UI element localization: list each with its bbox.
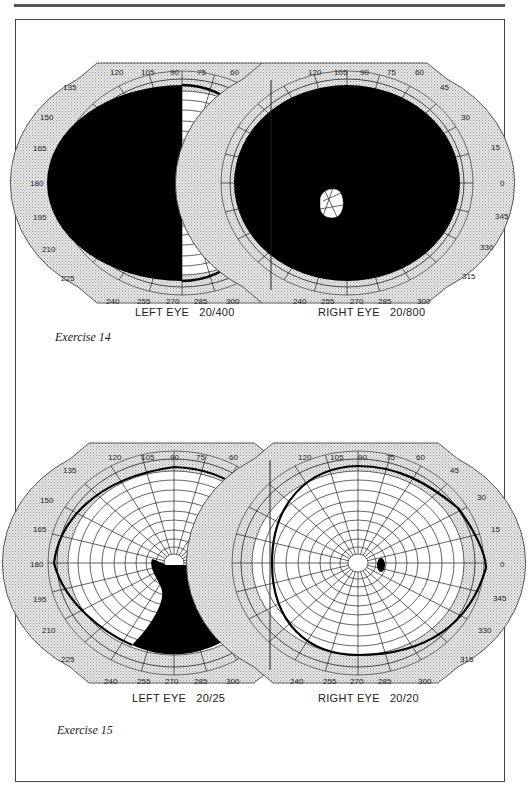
svg-text:30: 30 [477,493,486,502]
ex14-left-eye-label: LEFT EYE 20/400 [135,306,235,318]
svg-text:300: 300 [417,297,431,306]
svg-text:75: 75 [386,453,395,462]
svg-text:225: 225 [61,274,75,283]
svg-text:240: 240 [290,677,304,686]
svg-text:195: 195 [33,213,47,222]
svg-text:105: 105 [141,68,155,77]
svg-text:270: 270 [350,677,364,686]
svg-text:240: 240 [106,297,120,306]
ex15-caption: Exercise 15 [57,723,113,738]
svg-text:270: 270 [166,297,180,306]
svg-text:120: 120 [110,68,124,77]
ex15-right-eye-chart [186,443,525,683]
svg-text:240: 240 [104,677,118,686]
svg-text:255: 255 [323,677,337,686]
svg-text:75: 75 [196,453,205,462]
svg-text:135: 135 [63,83,77,92]
svg-text:315: 315 [462,272,476,281]
svg-text:300: 300 [226,677,240,686]
svg-text:90: 90 [360,68,369,77]
svg-text:0: 0 [500,179,505,188]
svg-text:135: 135 [63,466,77,475]
svg-text:150: 150 [40,496,54,505]
svg-text:285: 285 [194,677,208,686]
svg-text:75: 75 [197,68,206,77]
svg-text:120: 120 [108,453,122,462]
svg-text:90: 90 [170,68,179,77]
svg-text:180: 180 [30,560,44,569]
svg-text:15: 15 [491,143,500,152]
ex14-right-eye-chart [175,63,514,303]
svg-text:120: 120 [298,453,312,462]
svg-text:60: 60 [230,68,239,77]
svg-text:60: 60 [415,68,424,77]
svg-text:90: 90 [170,453,179,462]
svg-text:255: 255 [137,677,151,686]
svg-text:150: 150 [40,113,54,122]
svg-text:60: 60 [416,453,425,462]
svg-text:165: 165 [33,144,47,153]
svg-text:180: 180 [30,179,44,188]
svg-text:105: 105 [330,453,344,462]
svg-text:225: 225 [61,655,75,664]
svg-text:285: 285 [378,297,392,306]
svg-text:45: 45 [440,83,449,92]
svg-text:270: 270 [165,677,179,686]
svg-text:45: 45 [450,466,459,475]
svg-text:105: 105 [334,68,348,77]
svg-text:210: 210 [42,245,56,254]
svg-text:345: 345 [493,594,507,603]
svg-text:300: 300 [418,677,432,686]
svg-text:240: 240 [293,297,307,306]
svg-text:330: 330 [480,243,494,252]
svg-text:30: 30 [461,113,470,122]
svg-text:120: 120 [308,68,322,77]
ex14-caption: Exercise 14 [55,330,111,345]
svg-text:300: 300 [226,297,240,306]
visual-field-charts: 120105907560 120105907560 45301503453303… [0,0,531,801]
svg-text:270: 270 [350,297,364,306]
svg-text:15: 15 [491,525,500,534]
svg-text:330: 330 [478,626,492,635]
svg-text:105: 105 [141,453,155,462]
svg-text:285: 285 [194,297,208,306]
svg-text:255: 255 [137,297,151,306]
ex15-left-eye-label: LEFT EYE 20/25 [132,692,225,704]
svg-text:75: 75 [387,68,396,77]
svg-text:315: 315 [460,655,474,664]
svg-text:285: 285 [378,677,392,686]
svg-text:345: 345 [495,212,509,221]
svg-text:90: 90 [358,453,367,462]
svg-text:165: 165 [33,525,47,534]
svg-text:60: 60 [229,453,238,462]
svg-text:195: 195 [33,595,47,604]
ex15-right-eye-label: RIGHT EYE 20/20 [318,692,419,704]
svg-text:0: 0 [500,560,505,569]
svg-text:210: 210 [42,626,56,635]
svg-text:255: 255 [321,297,335,306]
ex14-right-eye-label: RIGHT EYE 20/800 [318,306,425,318]
